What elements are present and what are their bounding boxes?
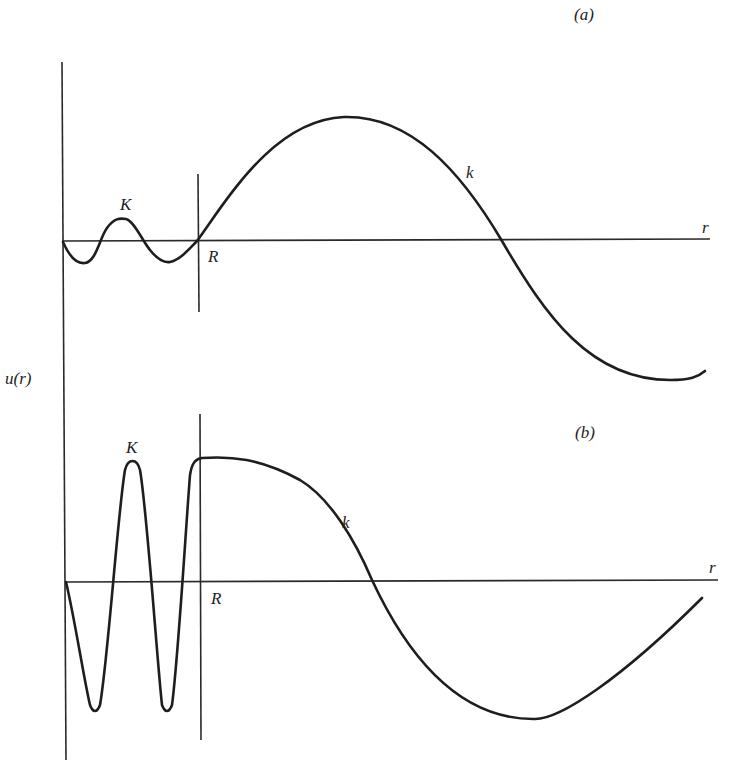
wavefunction-diagram: K R k r (a) u(r) K R k r (b) [0, 0, 748, 762]
panel-b-r-axis [66, 580, 718, 582]
panel-a-wavefunction-curve [63, 117, 705, 380]
panel-a-r-axis-label: r [702, 218, 709, 237]
panel-b-boundary-line [200, 414, 201, 740]
panel-a-outer-wave-label: k [466, 163, 474, 182]
panel-a-r-axis [62, 239, 710, 241]
panel-a-tag: (a) [574, 5, 594, 24]
panel-a: K R k r (a) [62, 5, 710, 380]
panel-b-r-axis-label: r [709, 558, 716, 577]
panel-b-tag: (b) [575, 423, 595, 442]
y-axis [62, 62, 66, 760]
panel-b-wavefunction-curve [66, 457, 702, 719]
panel-b-outer-wave-label: k [342, 513, 350, 532]
panel-b: K R k r (b) [66, 414, 718, 740]
panel-a-boundary-label: R [207, 247, 219, 266]
panel-b-boundary-label: R [210, 589, 222, 608]
panel-a-inner-wave-label: K [119, 195, 133, 214]
panel-a-boundary-line [198, 174, 199, 312]
y-axis-label: u(r) [5, 369, 32, 388]
panel-b-inner-wave-label: K [125, 438, 139, 457]
